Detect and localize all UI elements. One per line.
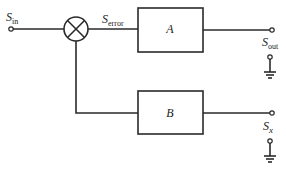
secondary-output-label: Sx bbox=[263, 119, 273, 135]
branch-wire bbox=[76, 41, 138, 113]
summing-junction-icon bbox=[64, 17, 88, 41]
error-label: Serror bbox=[102, 12, 124, 28]
input-terminal bbox=[9, 27, 13, 31]
secondary-output-terminal bbox=[270, 111, 274, 115]
output-terminal bbox=[270, 28, 274, 32]
ground-icon bbox=[264, 139, 276, 162]
block-b-label: B bbox=[166, 106, 174, 120]
block-a-label: A bbox=[165, 22, 174, 36]
ground-icon bbox=[264, 55, 276, 78]
output-label: Sout bbox=[262, 35, 279, 51]
block-diagram: Sin Serror A Sout B Sx bbox=[0, 0, 286, 172]
input-label: Sin bbox=[6, 10, 18, 26]
